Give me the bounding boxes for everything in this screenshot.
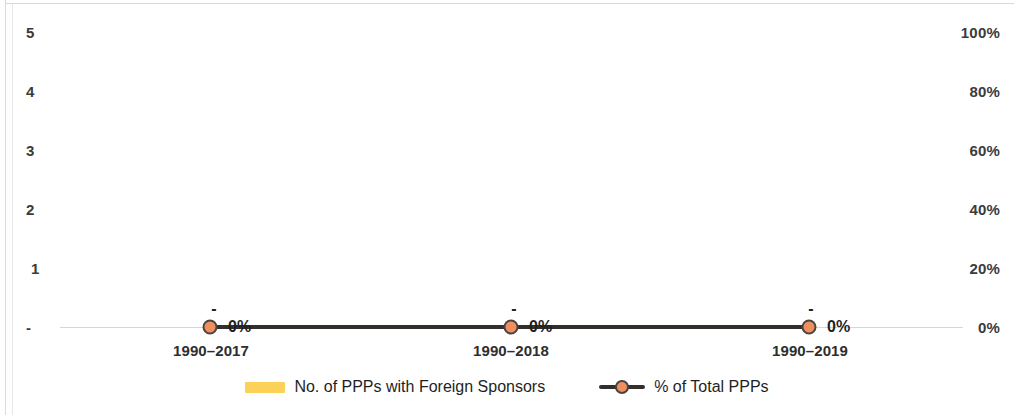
swatch-marker-dot <box>615 380 629 394</box>
bar-swatch-icon <box>245 382 285 393</box>
right-axis-tick-60: 60% <box>969 142 1000 159</box>
legend-label-percent-of-total-ppps: % of Total PPPs <box>654 378 768 396</box>
right-axis-tick-80: 80% <box>969 83 1000 100</box>
chart-figure: 5 4 3 2 1 - 100% 80% 60% 40% 20% 0% 0% 0… <box>0 0 1014 415</box>
legend-item-percent-of-total-ppps[interactable]: % of Total PPPs <box>599 378 768 396</box>
legend-label-no-of-ppps-with-foreign-sponsors: No. of PPPs with Foreign Sponsors <box>294 378 545 396</box>
data-point-marker-1990-2019[interactable] <box>802 320 817 335</box>
data-label-percent-1990-2017: 0% <box>228 318 251 336</box>
left-axis-tick-0: - <box>26 319 31 336</box>
x-axis-tick-1990-2018: 1990–2018 <box>473 342 549 359</box>
data-label-count-1990-2018: - <box>511 300 516 318</box>
legend-item-no-of-ppps-with-foreign-sponsors[interactable]: No. of PPPs with Foreign Sponsors <box>245 378 545 396</box>
right-axis-tick-0: 0% <box>978 319 1000 336</box>
data-label-percent-1990-2018: 0% <box>529 318 552 336</box>
left-axis-tick-1: 1 <box>31 260 40 277</box>
left-axis-tick-3: 3 <box>26 142 35 159</box>
data-label-count-1990-2019: - <box>808 300 813 318</box>
left-axis-tick-4: 4 <box>26 83 35 100</box>
left-axis-tick-2: 2 <box>26 201 35 218</box>
data-point-marker-1990-2018[interactable] <box>504 320 519 335</box>
x-axis-tick-1990-2019: 1990–2019 <box>772 342 848 359</box>
right-axis-tick-40: 40% <box>969 201 1000 218</box>
line-marker-swatch-icon <box>599 380 645 395</box>
plot-area: 5 4 3 2 1 - 100% 80% 60% 40% 20% 0% 0% 0… <box>0 0 1014 415</box>
chart-legend: No. of PPPs with Foreign Sponsors % of T… <box>0 378 1014 396</box>
data-label-percent-1990-2019: 0% <box>827 318 850 336</box>
x-axis-tick-1990-2017: 1990–2017 <box>173 342 249 359</box>
data-label-count-1990-2017: - <box>211 300 216 318</box>
data-point-marker-1990-2017[interactable] <box>203 320 218 335</box>
left-axis-tick-5: 5 <box>26 24 35 41</box>
right-axis-tick-100: 100% <box>961 24 1000 41</box>
right-axis-tick-20: 20% <box>969 260 1000 277</box>
